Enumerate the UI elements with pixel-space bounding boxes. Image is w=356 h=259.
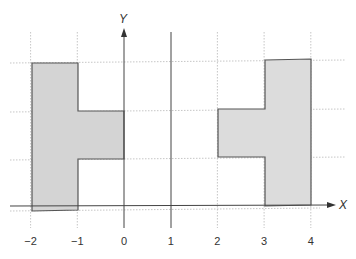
x-tick-label: 4	[308, 235, 314, 247]
right-shape	[218, 59, 311, 206]
x-axis-arrowhead	[327, 202, 336, 208]
x-tick-label: 1	[168, 235, 174, 247]
x-tick-label: 0	[121, 235, 127, 247]
x-tick-label: −1	[71, 235, 84, 247]
x-tick-label: 3	[261, 235, 267, 247]
x-tick-label: 2	[214, 235, 220, 247]
y-axis-arrowhead	[121, 28, 127, 37]
x-tick-label: −2	[24, 235, 37, 247]
x-tick-labels: −2−101234	[24, 235, 314, 247]
x-axis-label: X	[338, 198, 348, 212]
reflection-diagram: X Y −2−101234	[0, 0, 356, 259]
y-axis-label: Y	[119, 12, 128, 26]
left-shape	[32, 63, 124, 211]
